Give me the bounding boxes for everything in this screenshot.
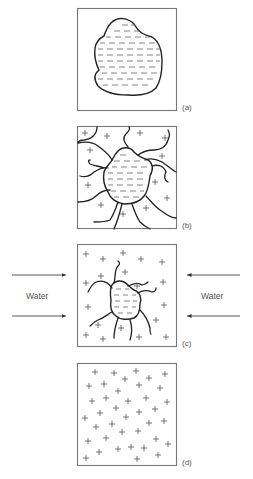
panel-label-b: (b) bbox=[182, 221, 192, 230]
plus-signs-c bbox=[83, 250, 169, 342]
panel-a: (a) bbox=[78, 9, 193, 113]
panel-b: (b) bbox=[78, 127, 193, 231]
panel-c: Water Water bbox=[12, 245, 240, 349]
water-blob-c bbox=[110, 281, 140, 319]
water-dashes-a bbox=[98, 25, 160, 85]
cracks-b bbox=[78, 127, 176, 229]
panel-b-frame bbox=[78, 127, 177, 229]
diagram-canvas: (a) bbox=[0, 0, 253, 479]
plus-signs-d bbox=[82, 368, 171, 462]
water-label-right: Water bbox=[201, 291, 224, 301]
water-label-left: Water bbox=[26, 291, 49, 301]
panel-d: (d) bbox=[78, 364, 193, 468]
water-blob-b bbox=[104, 148, 153, 204]
water-dashes-c bbox=[114, 289, 137, 313]
panel-label-d: (d) bbox=[182, 458, 192, 467]
panel-label-a: (a) bbox=[182, 103, 192, 112]
panel-label-c: (c) bbox=[182, 339, 192, 348]
water-blob-a bbox=[95, 19, 162, 96]
water-dashes-b bbox=[108, 155, 147, 197]
